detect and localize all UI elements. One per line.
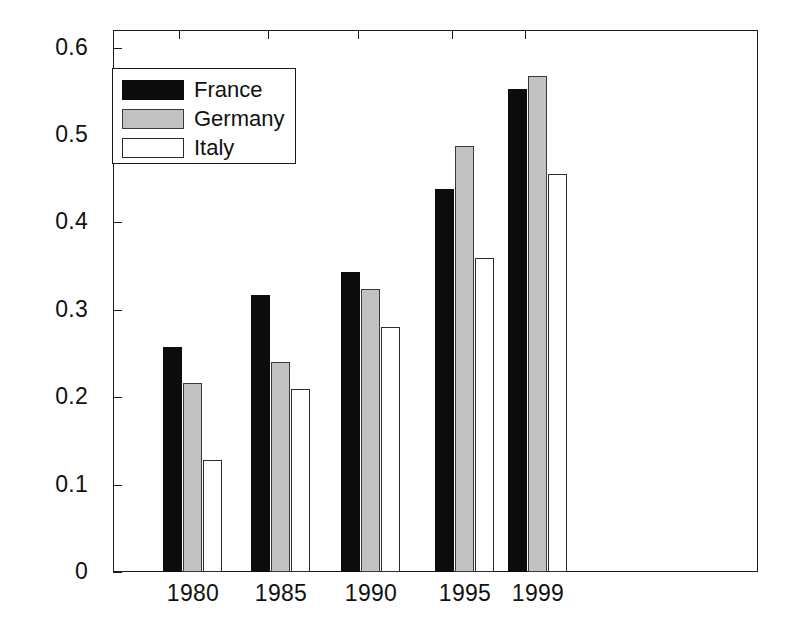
y-tick-mark-0.1 xyxy=(113,485,122,486)
bar-germany-1980 xyxy=(183,383,202,572)
y-tick-mark-0.4 xyxy=(113,222,122,223)
legend-label-france: France xyxy=(194,79,262,101)
y-tick-label-0.5: 0.5 xyxy=(28,123,88,146)
bar-germany-1995 xyxy=(455,146,474,572)
bar-italy-1980 xyxy=(203,460,222,572)
bar-germany-1999 xyxy=(528,76,547,572)
x-tick-mark-1985 xyxy=(268,30,269,39)
y-tick-label-0.3: 0.3 xyxy=(28,298,88,321)
y-tick-mark-0 xyxy=(113,572,122,573)
bar-france-1995 xyxy=(435,189,454,572)
bar-germany-1990 xyxy=(361,289,380,572)
bar-germany-1985 xyxy=(271,362,290,572)
chart-legend: France Germany Italy xyxy=(112,68,296,164)
legend-swatch-italy-icon xyxy=(122,138,184,158)
bar-italy-1990 xyxy=(381,327,400,572)
bar-france-1990 xyxy=(341,272,360,572)
legend-label-italy: Italy xyxy=(194,137,234,159)
y-tick-label-0.6: 0.6 xyxy=(28,36,88,59)
bar-italy-1999 xyxy=(548,174,567,572)
y-tick-mark-0.3 xyxy=(113,310,122,311)
legend-item-france: France xyxy=(113,76,295,103)
bar-italy-1995 xyxy=(475,258,494,572)
bar-france-1985 xyxy=(251,295,270,572)
bar-france-1999 xyxy=(508,89,527,572)
y-tick-mark-0.2 xyxy=(113,397,122,398)
legend-item-germany: Germany xyxy=(113,105,295,132)
x-tick-mark-1999 xyxy=(525,30,526,39)
legend-swatch-germany-icon xyxy=(122,109,184,129)
y-tick-label-0: 0 xyxy=(28,560,88,583)
legend-item-italy: Italy xyxy=(113,134,295,161)
legend-swatch-france-icon xyxy=(122,80,184,100)
legend-label-germany: Germany xyxy=(194,108,284,130)
x-tick-mark-1995 xyxy=(452,30,453,39)
y-tick-label-0.4: 0.4 xyxy=(28,210,88,233)
bar-chart: 0.6 0.5 0.4 0.3 0.2 0.1 0 1980 1985 1990… xyxy=(0,0,797,639)
y-tick-label-0.1: 0.1 xyxy=(28,473,88,496)
y-tick-mark-0.6 xyxy=(113,48,122,49)
bar-france-1980 xyxy=(163,347,182,572)
x-tick-label-1999: 1999 xyxy=(483,582,593,605)
x-tick-mark-1980 xyxy=(179,30,180,39)
bar-italy-1985 xyxy=(291,389,310,572)
x-tick-mark-1990 xyxy=(358,30,359,39)
y-tick-label-0.2: 0.2 xyxy=(28,385,88,408)
